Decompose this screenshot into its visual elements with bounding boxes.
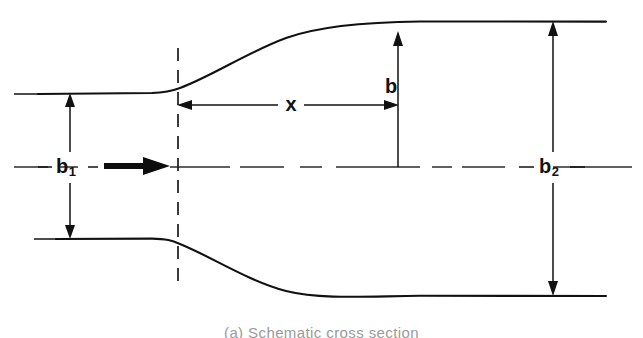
label-x-base: x	[285, 93, 296, 115]
figure-root: b1 b2 b	[0, 0, 643, 338]
diffuser-schematic: b1 b2 b	[0, 0, 643, 338]
label-b2-subscript: 2	[552, 164, 559, 179]
label-b2-base: b	[539, 155, 551, 177]
figure-caption: (a) Schematic cross section	[0, 322, 643, 338]
label-b-base: b	[385, 75, 397, 97]
label-b: b	[385, 75, 397, 97]
label-x: x	[285, 93, 296, 115]
label-b1-base: b	[56, 155, 68, 177]
label-b1-subscript: 1	[69, 164, 76, 179]
